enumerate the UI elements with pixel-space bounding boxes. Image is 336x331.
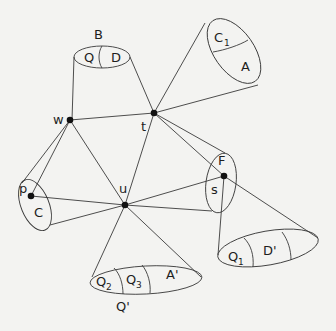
cone-D-prime-divider-2 <box>282 232 291 260</box>
label-t: t <box>141 119 146 134</box>
cone-C1-A-base <box>196 9 271 93</box>
label-w: w <box>53 112 64 127</box>
labels: B Q D C 1 A w t F s p C u Q 2 Q 3 A' Q' … <box>19 27 277 314</box>
edge-t-s <box>154 113 224 176</box>
cone-D-prime-divider-1 <box>244 238 253 267</box>
cone-C1-A <box>154 9 272 113</box>
cone-B-side-right <box>130 57 154 113</box>
cone-p-side-bottom <box>50 205 125 225</box>
cone-B-side-left <box>72 57 74 120</box>
label-F: F <box>218 153 225 168</box>
cone-B-divider <box>99 46 102 68</box>
cone-F-side-top <box>154 113 225 153</box>
label-Q2: Q <box>96 274 106 289</box>
label-D-prime: D' <box>263 243 277 258</box>
edge-u-s <box>125 176 224 205</box>
cone-Q-prime-divider-1 <box>114 268 123 294</box>
edge-u-p <box>31 196 125 205</box>
label-D: D <box>111 50 121 65</box>
cone-D-prime-side-left <box>218 176 224 255</box>
label-Q1-subscript: 1 <box>238 257 244 267</box>
node-s <box>221 173 228 180</box>
node-t <box>151 110 158 117</box>
label-C-subscript: 1 <box>224 38 230 48</box>
cone-p-side-top <box>22 120 70 183</box>
cone-D-prime-side-right <box>224 176 318 238</box>
node-u <box>122 202 129 209</box>
cone-Q-prime-side-left <box>92 205 125 277</box>
edge-t-u <box>125 113 154 205</box>
label-p: p <box>19 181 27 196</box>
cone-C1-A-side-top <box>154 23 205 113</box>
label-Q3-subscript: 3 <box>136 280 142 290</box>
node-p <box>28 193 35 200</box>
cone-F-side-bottom <box>125 205 212 211</box>
label-Q1: Q <box>228 249 238 264</box>
cone-Q-prime-divider-2 <box>142 265 150 293</box>
node-w <box>67 117 74 124</box>
cone-C1-A-side-bottom <box>154 85 258 113</box>
label-u: u <box>119 181 127 196</box>
cone-p-C <box>12 120 125 235</box>
label-C-left: C <box>34 205 43 220</box>
label-Q-prime: Q' <box>116 299 130 314</box>
label-A: A <box>241 59 250 74</box>
diagram-canvas: B Q D C 1 A w t F s p C u Q 2 Q 3 A' Q' … <box>0 0 336 331</box>
label-Q3: Q <box>126 272 136 287</box>
label-Q: Q <box>84 50 94 65</box>
cone-B-base <box>74 46 130 68</box>
label-A-prime: A' <box>166 267 178 282</box>
graph-diagram: B Q D C 1 A w t F s p C u Q 2 Q 3 A' Q' … <box>0 0 336 331</box>
label-s: s <box>211 182 218 197</box>
label-C: C <box>214 30 223 45</box>
label-B: B <box>94 27 103 42</box>
edge-w-u <box>70 120 125 205</box>
edge-w-p <box>31 120 70 196</box>
label-Q2-subscript: 2 <box>106 282 112 292</box>
